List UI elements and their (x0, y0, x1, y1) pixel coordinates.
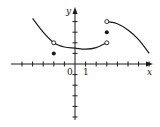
curve-right-piece (107, 22, 149, 54)
axes (11, 7, 153, 120)
y-axis-label: y (65, 6, 72, 16)
y-axis-arrow-icon (73, 7, 78, 14)
x-tick-label-1: 1 (83, 67, 89, 77)
origin-label: 0 (67, 67, 73, 77)
open-circle-point (52, 41, 56, 45)
open-circle-point (105, 20, 109, 24)
function-graph: x y 0 1 (0, 0, 160, 127)
curve-left-piece (33, 18, 107, 49)
curves (33, 18, 150, 53)
points (52, 20, 109, 56)
closed-dot-point (105, 30, 109, 34)
x-axis-label: x (147, 67, 152, 77)
closed-dot-point (52, 51, 56, 55)
open-circle-point (105, 41, 109, 45)
